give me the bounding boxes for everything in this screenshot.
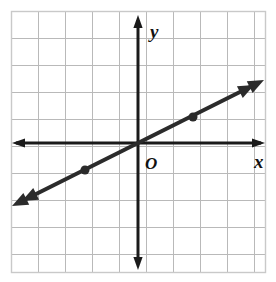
data-point-marker xyxy=(81,166,90,175)
coordinate-plane-figure: y x O xyxy=(0,0,276,282)
x-axis-label: x xyxy=(253,151,264,172)
data-point-marker xyxy=(189,113,198,122)
origin-label: O xyxy=(145,154,157,173)
graph-screenshot: y x O xyxy=(0,0,276,282)
coordinate-plane-svg: y x O xyxy=(0,0,276,282)
y-axis-label: y xyxy=(148,21,159,42)
